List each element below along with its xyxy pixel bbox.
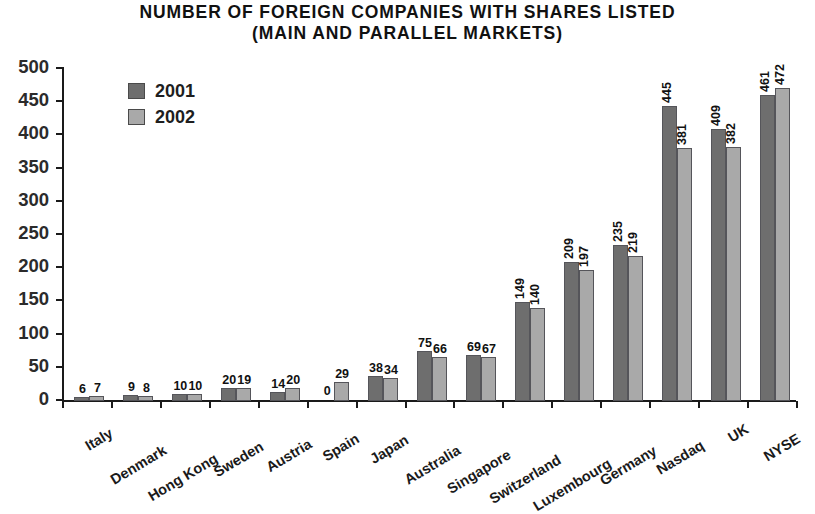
bar-value-label: 6: [79, 383, 86, 396]
bar-value-label: 461: [759, 71, 772, 92]
bar-2001: [613, 245, 628, 401]
bar-group: 209197: [564, 69, 594, 401]
x-axis-label-austria: Austria: [263, 436, 314, 475]
bar-2001: [711, 129, 726, 401]
x-axis-tick: [405, 401, 407, 408]
bar-2002: [285, 388, 300, 401]
x-axis-tick: [111, 401, 113, 408]
bar-value-label: 235: [612, 221, 625, 242]
bar-2001: [466, 355, 481, 401]
bar-2002: [628, 256, 643, 401]
y-axis-tick-label: 500: [18, 57, 49, 76]
bar-group: 1420: [270, 69, 300, 401]
x-axis-tick: [649, 401, 651, 408]
x-axis-tick: [307, 401, 309, 408]
bar-group: 409382: [711, 69, 741, 401]
x-axis-label-nasdaq: Nasdaq: [653, 437, 706, 478]
bar-value-label: 381: [676, 124, 689, 145]
bar-2001: [270, 392, 285, 401]
legend-item-2001[interactable]: 2001: [128, 80, 195, 101]
bar-value-label: 472: [774, 64, 787, 85]
bar-2002: [481, 357, 496, 401]
bar-group: 461472: [760, 69, 790, 401]
bar-value-label: 7: [94, 382, 101, 395]
bar-2002: [89, 396, 104, 401]
bar-value-label: 34: [384, 364, 398, 377]
x-axis-tick: [796, 401, 798, 408]
bar-value-label: 445: [661, 82, 674, 103]
bar-2002: [530, 308, 545, 401]
bar-2001: [760, 95, 775, 401]
bar-value-label: 149: [514, 278, 527, 299]
bar-2002: [236, 388, 251, 401]
bar-value-label: 219: [627, 232, 640, 253]
bar-2002: [775, 88, 790, 401]
y-axis-tick: 450: [56, 100, 62, 102]
y-axis-tick-label: 50: [28, 356, 49, 375]
bar-group: 7566: [417, 69, 447, 401]
y-axis-tick-label: 400: [18, 123, 49, 142]
bar-2001: [172, 394, 187, 401]
chart-title-line-1: NUMBER OF FOREIGN COMPANIES WITH SHARES …: [0, 2, 815, 23]
y-axis-tick: 300: [56, 200, 62, 202]
bar-2002: [579, 270, 594, 401]
x-axis-label-nyse: NYSE: [760, 430, 802, 464]
chart-title-line-2: (MAIN AND PARALLEL MARKETS): [0, 23, 815, 44]
bar-group: 029: [319, 69, 349, 401]
y-axis-tick: 150: [56, 299, 62, 301]
bar-group: 3834: [368, 69, 398, 401]
bar-value-label: 67: [482, 343, 496, 356]
bar-value-label: 69: [467, 341, 481, 354]
bar-2001: [368, 376, 383, 401]
y-axis-tick: 500: [56, 67, 62, 69]
bar-2002: [726, 147, 741, 401]
legend-label-2001: 2001: [155, 82, 195, 100]
y-axis-tick: 200: [56, 266, 62, 268]
y-axis-tick-label: 200: [18, 256, 49, 275]
bar-group: 67: [74, 69, 104, 401]
y-axis-tick: 250: [56, 233, 62, 235]
legend-label-2002: 2002: [155, 108, 195, 126]
bar-value-label: 10: [188, 380, 202, 393]
bar-2001: [417, 351, 432, 401]
y-axis-tick-label: 150: [18, 289, 49, 308]
x-axis-tick: [258, 401, 260, 408]
x-axis-label-italy: Italy: [83, 425, 116, 454]
bar-group: 2019: [221, 69, 251, 401]
legend-swatch-2001: [128, 83, 145, 99]
bar-value-label: 38: [369, 362, 383, 375]
bar-group: 445381: [662, 69, 692, 401]
x-axis-tick: [453, 401, 455, 408]
bar-2002: [334, 382, 349, 401]
bar-2001: [515, 302, 530, 401]
x-axis-label-uk: UK: [725, 421, 751, 446]
bar-value-label: 19: [237, 374, 251, 387]
bar-2002: [383, 378, 398, 401]
bar-2001: [74, 397, 89, 401]
y-axis-tick-label: 100: [18, 323, 49, 342]
x-axis-label-japan: Japan: [367, 432, 411, 467]
chart-title: NUMBER OF FOREIGN COMPANIES WITH SHARES …: [0, 2, 815, 44]
x-axis-tick: [551, 401, 553, 408]
y-axis-tick-label: 300: [18, 190, 49, 209]
legend-item-2002[interactable]: 2002: [128, 106, 195, 127]
bar-2001: [564, 262, 579, 401]
x-axis-tick: [747, 401, 749, 408]
y-axis-tick-label: 250: [18, 223, 49, 242]
bar-value-label: 382: [725, 124, 738, 145]
bar-value-label: 409: [710, 106, 723, 127]
y-axis-tick: 100: [56, 333, 62, 335]
bar-2002: [677, 148, 692, 401]
bar-value-label: 20: [286, 374, 300, 387]
bar-2001: [662, 106, 677, 401]
y-axis-tick: 50: [56, 366, 62, 368]
bar-value-label: 209: [563, 238, 576, 259]
bar-group: 235219: [613, 69, 643, 401]
bar-value-label: 9: [128, 381, 135, 394]
x-axis-tick: [600, 401, 602, 408]
bar-value-label: 14: [271, 378, 285, 391]
y-axis-tick: 400: [56, 133, 62, 135]
x-axis-label-spain: Spain: [320, 430, 362, 464]
bar-value-label: 10: [173, 380, 187, 393]
